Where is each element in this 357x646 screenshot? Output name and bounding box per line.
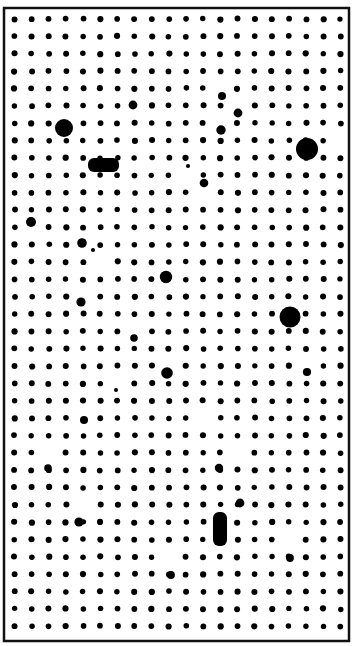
- grid-dot: [28, 311, 34, 317]
- grid-dot: [149, 102, 155, 108]
- grid-dot: [252, 329, 258, 335]
- grid-dot: [251, 398, 257, 404]
- grid-dot: [114, 536, 120, 542]
- grid-dot: [149, 294, 155, 300]
- grid-dot: [184, 484, 190, 490]
- grid-dot: [321, 311, 327, 317]
- grid-dot: [235, 68, 241, 74]
- grid-dot: [131, 86, 137, 92]
- grid-dot: [132, 173, 138, 179]
- grid-dot: [321, 241, 327, 247]
- grid-dot: [337, 415, 343, 421]
- grid-dot: [252, 137, 258, 143]
- grid-dot: [29, 259, 35, 265]
- grid-dot: [235, 16, 241, 22]
- grid-dot: [29, 554, 35, 560]
- grid-dot: [303, 589, 309, 595]
- grid-dot: [12, 415, 18, 421]
- grid-dot: [286, 259, 292, 265]
- grid-dot: [46, 33, 52, 39]
- grid-dot: [217, 277, 223, 283]
- grid-dot: [183, 398, 189, 404]
- grid-dot: [252, 467, 258, 473]
- grid-dot: [12, 398, 17, 404]
- grid-dot: [252, 433, 258, 439]
- grid-dot: [63, 363, 69, 369]
- grid-dot: [98, 138, 104, 144]
- grid-dot: [166, 537, 172, 543]
- grid-dot: [183, 190, 189, 196]
- grid-dot: [63, 450, 69, 456]
- grid-dot: [63, 190, 69, 196]
- grid-dot: [97, 415, 103, 421]
- grid-dot: [166, 433, 172, 439]
- grid-dot: [97, 623, 103, 629]
- grid-dot: [303, 68, 309, 74]
- grid-dot: [12, 137, 18, 143]
- grid-dot: [218, 172, 224, 178]
- grid-dot: [97, 172, 103, 178]
- grid-dot: [166, 623, 172, 629]
- medium-dot-col12-row4-dot: [218, 92, 226, 100]
- grid-dot: [235, 259, 241, 265]
- grid-dot: [183, 554, 189, 560]
- grid-dot: [46, 554, 52, 560]
- large-dot-upper-right-dot: [296, 138, 318, 160]
- grid-dot: [234, 380, 240, 386]
- grid-dot: [12, 381, 18, 387]
- grid-dot: [252, 207, 258, 213]
- grid-dot: [12, 103, 17, 108]
- grid-dot: [183, 415, 188, 420]
- grid-dot: [80, 68, 86, 74]
- grid-dot: [97, 432, 103, 438]
- grid-dot: [63, 589, 69, 595]
- medium-dot-row13-dot: [77, 238, 87, 248]
- grid-dot: [183, 572, 189, 578]
- grid-dot: [114, 33, 120, 39]
- grid-dot: [183, 16, 189, 22]
- grid-dot: [320, 173, 326, 179]
- grid-dot: [252, 224, 258, 230]
- grid-dot: [114, 398, 120, 404]
- grid-dot: [269, 624, 275, 630]
- grid-dot: [80, 328, 86, 334]
- grid-dot: [252, 68, 258, 74]
- grid-dot: [166, 86, 172, 92]
- grid-dot: [149, 207, 155, 213]
- grid-dot: [268, 207, 274, 213]
- dot-grid-svg: [0, 0, 357, 646]
- grid-dot: [28, 51, 34, 57]
- grid-dot: [62, 536, 68, 542]
- grid-dot: [114, 329, 120, 335]
- grid-dot: [218, 103, 224, 109]
- grid-dot: [183, 207, 189, 213]
- grid-dot: [321, 346, 327, 352]
- grid-dot: [235, 433, 241, 439]
- grid-dot: [46, 294, 52, 300]
- grid-dot: [166, 207, 172, 213]
- grid-dot: [11, 432, 17, 438]
- grid-dot: [29, 624, 35, 630]
- grid-dot: [200, 276, 206, 282]
- grid-dot: [81, 85, 87, 91]
- grid-dot: [46, 519, 52, 525]
- grid-dot: [286, 121, 291, 126]
- grid-dot: [217, 16, 223, 22]
- grid-dot: [320, 554, 326, 560]
- grid-dot: [234, 86, 240, 92]
- grid-dot: [81, 364, 87, 370]
- grid-dot: [303, 225, 309, 231]
- medium-dot-col17-row20-dot: [303, 368, 311, 376]
- grid-dot: [12, 311, 17, 316]
- grid-dot: [217, 329, 222, 334]
- grid-dot: [252, 120, 257, 125]
- grid-dot: [45, 605, 51, 611]
- grid-dot: [46, 311, 52, 317]
- grid-dot: [132, 138, 138, 144]
- grid-dot: [12, 623, 18, 629]
- grid-dot: [200, 33, 206, 39]
- grid-dot: [115, 554, 121, 560]
- grid-dot: [114, 519, 120, 525]
- grid-dot: [304, 485, 310, 491]
- grid-dot: [269, 85, 275, 91]
